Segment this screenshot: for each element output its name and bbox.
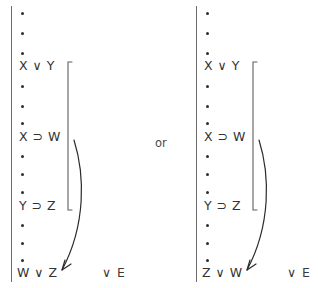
inference-arrow-right	[247, 140, 266, 270]
ellipsis-dot	[206, 12, 209, 15]
ellipsis-dot	[206, 155, 209, 158]
ellipsis-dot	[21, 122, 24, 125]
formula-row-conditional-second: Y ⊃ Z	[204, 198, 241, 214]
premise-bracket-left	[68, 62, 72, 210]
ellipsis-dot	[206, 224, 209, 227]
rule-label-or-elimination: ∨ E	[287, 265, 311, 280]
ellipsis-dot	[206, 191, 209, 194]
ellipsis-dot	[206, 52, 209, 55]
conclusion-row: W ∨ Z	[17, 265, 58, 281]
ellipsis-dot	[206, 122, 209, 125]
formula-row-conditional-first: X ⊃ W	[204, 129, 246, 145]
ellipsis-dot	[206, 259, 209, 262]
ellipsis-dot	[206, 242, 209, 245]
ellipsis-dot	[206, 32, 209, 35]
proof-diagram-canvas: X ∨ Y X ⊃ W Y ⊃ Z W ∨ Z ∨ E X ∨ Y X ⊃ W	[0, 0, 318, 288]
ellipsis-dot	[21, 242, 24, 245]
ellipsis-dot	[21, 155, 24, 158]
formula-row-conditional-second: Y ⊃ Z	[19, 198, 56, 214]
ellipsis-dot	[21, 32, 24, 35]
connector-or-text: or	[155, 136, 167, 150]
ellipsis-dot	[21, 12, 24, 15]
ellipsis-dot	[21, 52, 24, 55]
ellipsis-dot	[21, 85, 24, 88]
ellipsis-dot	[21, 224, 24, 227]
formula-row-conditional-first: X ⊃ W	[19, 129, 61, 145]
ellipsis-dot	[21, 105, 24, 108]
ellipsis-dot	[206, 105, 209, 108]
proof-scope-bar-left	[11, 6, 12, 282]
ellipsis-dot	[21, 173, 24, 176]
conclusion-row: Z ∨ W	[202, 265, 243, 281]
ellipsis-dot	[21, 259, 24, 262]
ellipsis-dot	[21, 191, 24, 194]
rule-label-or-elimination: ∨ E	[102, 265, 126, 280]
ellipsis-dot	[206, 173, 209, 176]
inference-arrow-left	[62, 140, 81, 270]
formula-row-disjunction: X ∨ Y	[204, 58, 240, 74]
ellipsis-dot	[206, 85, 209, 88]
premise-bracket-right	[253, 62, 257, 210]
proof-scope-bar-right	[196, 6, 197, 282]
formula-row-disjunction: X ∨ Y	[19, 58, 55, 74]
